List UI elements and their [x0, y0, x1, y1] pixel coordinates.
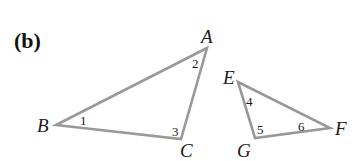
triangles-diagram: (b) A B C 1 2 3 E F G 4 5 6	[0, 0, 363, 161]
vertex-label-e: E	[222, 67, 235, 88]
vertex-label-f: F	[334, 118, 347, 139]
angle-label-3: 3	[172, 124, 179, 139]
angle-label-6: 6	[298, 119, 305, 134]
angle-label-2: 2	[192, 56, 199, 71]
angle-label-1: 1	[80, 113, 87, 128]
triangle-efg	[238, 82, 330, 138]
angle-label-4: 4	[246, 94, 253, 109]
vertex-label-c: C	[180, 140, 193, 161]
vertex-label-a: A	[199, 26, 213, 47]
panel-label: (b)	[14, 28, 41, 53]
vertex-label-b: B	[37, 115, 49, 136]
vertex-label-g: G	[237, 140, 251, 161]
triangle-abc	[56, 48, 207, 139]
angle-label-5: 5	[257, 122, 264, 137]
